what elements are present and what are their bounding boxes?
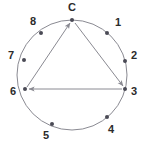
node-label-8: 8 (30, 15, 36, 27)
node-dot-8 (39, 31, 43, 35)
node-label-4: 4 (108, 123, 115, 135)
node-dot-1 (105, 31, 109, 35)
node-label-6: 6 (10, 85, 16, 97)
outer-circle-group (17, 20, 127, 130)
node-dot-4 (105, 115, 109, 119)
nodes-group (22, 18, 127, 126)
diagram-canvas: C12345678 (0, 0, 142, 151)
node-label-7: 7 (8, 49, 14, 61)
node-dot-7 (22, 58, 26, 62)
node-dot-3 (123, 87, 127, 91)
node-label-1: 1 (115, 16, 121, 28)
edge-6-to-C (27, 23, 70, 87)
edge-C-to-3 (75, 23, 123, 86)
node-label-2: 2 (131, 49, 137, 61)
node-label-c: C (68, 1, 76, 13)
node-label-5: 5 (43, 129, 49, 141)
circle-graph-figure: C12345678 (0, 0, 142, 151)
node-label-3: 3 (131, 85, 137, 97)
node-dot-6 (23, 87, 27, 91)
node-dot-2 (123, 59, 127, 63)
node-dot-5 (50, 122, 54, 126)
outer-circle (17, 20, 127, 130)
node-dot-c (70, 18, 74, 22)
